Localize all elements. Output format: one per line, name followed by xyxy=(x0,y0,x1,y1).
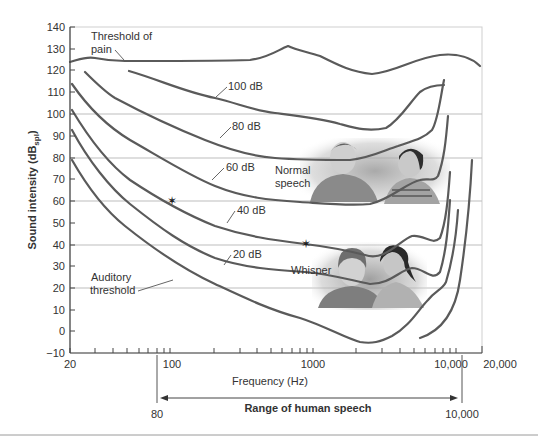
y-tick-label: 70 xyxy=(53,173,65,185)
y-tick-label: 140 xyxy=(47,21,65,33)
star-marker-100hz-60db: ✶ xyxy=(167,194,177,208)
y-tick-label: 40 xyxy=(53,239,65,251)
label-20db: 20 dB xyxy=(233,248,262,260)
speech-range-start: 80 xyxy=(151,408,163,420)
x-axis: 20 100 1000 10,000 20,000 Frequency (Hz) xyxy=(64,346,517,387)
y-tick-label: 60 xyxy=(53,195,65,207)
y-axis-title: Sound intensity (dBspl) xyxy=(26,130,41,249)
label-normal-speech: speech xyxy=(275,177,310,189)
y-tick-label: 120 xyxy=(47,64,65,76)
arrow-left-icon xyxy=(160,395,168,401)
equal-loudness-chart: ✶ ✶ 140 130 120 110 100 9 xyxy=(0,0,538,439)
y-tick-label: 20 xyxy=(53,282,65,294)
y-tick-label: −10 xyxy=(46,347,65,359)
y-tick-label: 10 xyxy=(53,304,65,316)
y-tick-label: 80 xyxy=(53,152,65,164)
x-tick-label: 10,000 xyxy=(434,358,468,370)
label-60db: 60 dB xyxy=(226,161,255,173)
y-tick-label: 100 xyxy=(47,108,65,120)
x-tick-label: 20 xyxy=(64,358,76,370)
curve-threshold-of-pain xyxy=(70,46,480,74)
y-tick-label: 110 xyxy=(47,86,65,98)
x-axis-title: Frequency (Hz) xyxy=(232,375,308,387)
person-head xyxy=(330,142,356,174)
label-auditory-threshold: threshold xyxy=(90,284,135,296)
star-marker-850hz-40db: ✶ xyxy=(301,237,311,251)
arrow-right-icon xyxy=(450,395,458,401)
label-threshold-of-pain: pain xyxy=(91,43,112,55)
x-tick-label: 100 xyxy=(163,358,181,370)
label-normal-speech: Normal xyxy=(275,164,310,176)
y-tick-label: 50 xyxy=(53,217,65,229)
curve-100db xyxy=(129,71,444,130)
label-100db: 100 dB xyxy=(228,80,263,92)
speech-range-end: 10,000 xyxy=(445,408,479,420)
label-80db: 80 dB xyxy=(232,120,261,132)
y-axis: 140 130 120 110 100 90 80 70 60 50 40 30… xyxy=(26,21,75,359)
speech-range-label: Range of human speech xyxy=(244,402,371,414)
label-whisper: Whisper xyxy=(291,264,332,276)
y-tick-label: 0 xyxy=(59,325,65,337)
y-tick-label: 30 xyxy=(53,260,65,272)
x-tick-label: 1000 xyxy=(301,358,325,370)
x-tick-label: 20,000 xyxy=(483,358,517,370)
y-tick-label: 90 xyxy=(53,130,65,142)
label-auditory-threshold: Auditory xyxy=(91,271,132,283)
normal-speech-photo xyxy=(300,138,450,204)
label-threshold-of-pain: Threshold of xyxy=(91,30,153,42)
y-tick-label: 130 xyxy=(47,43,65,55)
label-40db: 40 dB xyxy=(237,204,266,216)
